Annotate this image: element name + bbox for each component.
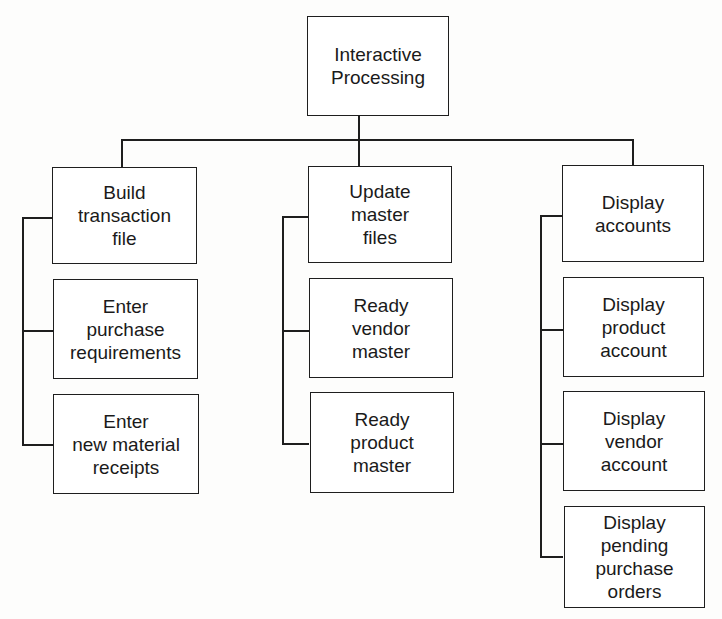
node-label: Display accounts	[595, 191, 671, 237]
connector-col3-drop	[632, 139, 634, 165]
node-display-accounts: Display accounts	[562, 165, 704, 262]
connector-col1-branch-1	[22, 217, 53, 219]
node-build-transaction-file: Build transaction file	[52, 167, 197, 264]
node-update-master-files: Update master files	[308, 166, 452, 263]
node-label: Interactive Processing	[331, 43, 425, 89]
connector-col3-branch-2	[540, 329, 563, 331]
node-ready-product-master: Ready product master	[310, 392, 454, 493]
node-display-vendor-account: Display vendor account	[563, 391, 705, 491]
connector-root-down	[358, 115, 360, 141]
node-interactive-processing: Interactive Processing	[307, 16, 449, 116]
connector-col1-branch-3	[22, 444, 53, 446]
node-label: Display product account	[600, 293, 667, 362]
node-display-pending-purchase-orders: Display pending purchase orders	[564, 506, 705, 608]
connector-col2-branch-3	[282, 443, 309, 445]
node-enter-purchase-requirements: Enter purchase requirements	[53, 279, 198, 379]
node-label: Display pending purchase orders	[595, 511, 673, 603]
node-display-product-account: Display product account	[563, 277, 704, 377]
connector-col2-branch-2	[282, 330, 309, 332]
node-label: Display vendor account	[601, 407, 668, 476]
connector-col1-drop	[121, 139, 123, 167]
node-label: Ready vendor master	[352, 294, 410, 363]
node-label: Enter new material receipts	[72, 410, 180, 479]
connector-col2-drop	[358, 139, 360, 166]
connector-col3-branch-1	[540, 215, 563, 217]
connector-col2-branch-1	[282, 216, 309, 218]
node-label: Update master files	[349, 180, 410, 249]
connector-col1-branch-2	[22, 330, 53, 332]
node-label: Build transaction file	[78, 181, 171, 250]
connector-col3-branch-3	[540, 443, 563, 445]
connector-col3-spine	[540, 215, 542, 558]
connector-col3-branch-4	[540, 556, 563, 558]
node-ready-vendor-master: Ready vendor master	[309, 278, 453, 378]
connector-horizontal-bus	[121, 139, 634, 141]
hierarchy-diagram: Interactive Processing Build transaction…	[0, 0, 722, 619]
node-label: Ready product master	[350, 408, 413, 477]
node-label: Enter purchase requirements	[70, 295, 181, 364]
node-enter-new-material-receipts: Enter new material receipts	[53, 394, 199, 494]
